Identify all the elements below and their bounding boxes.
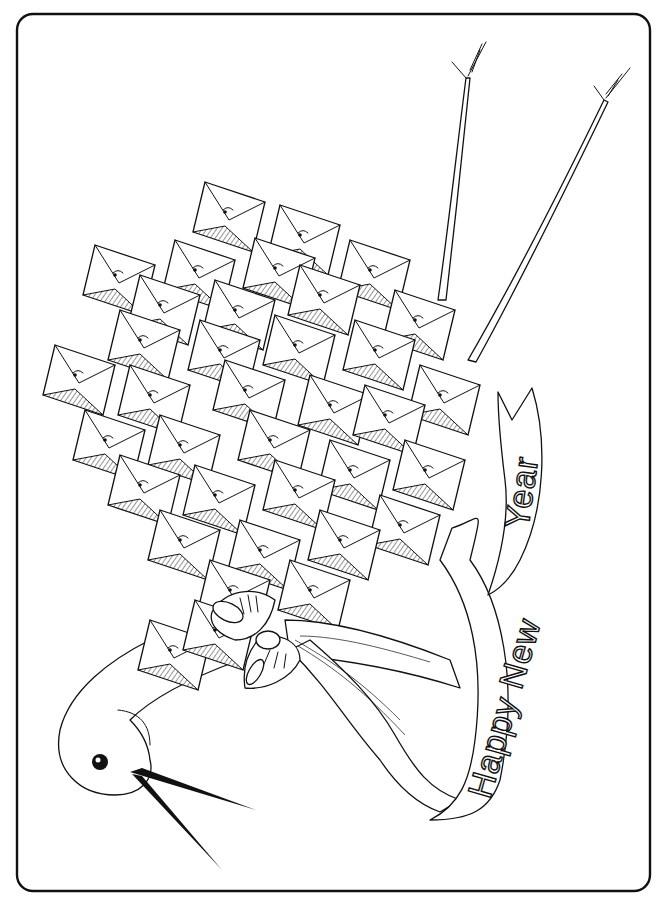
banner: Happy New Year bbox=[430, 388, 548, 820]
illustration-canvas: Happy New Year bbox=[0, 0, 668, 904]
legs bbox=[438, 42, 630, 362]
eye bbox=[92, 754, 108, 770]
coloring-page: Happy New Year bbox=[0, 0, 668, 904]
beak bbox=[130, 768, 256, 870]
envelope-body bbox=[43, 182, 480, 630]
